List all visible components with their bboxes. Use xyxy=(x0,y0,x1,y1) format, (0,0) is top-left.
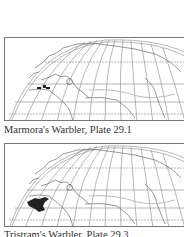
range-map-tristrams-warbler xyxy=(4,143,184,227)
caption-figure-1: Marmora's Warbler, Plate 29.1 xyxy=(4,124,132,135)
globe-map-icon xyxy=(5,38,184,121)
range-map-marmoras-warbler xyxy=(4,37,184,121)
caption-figure-2: Tristram's Warbler, Plate 29.3 xyxy=(4,229,129,237)
globe-map-icon xyxy=(5,144,184,227)
